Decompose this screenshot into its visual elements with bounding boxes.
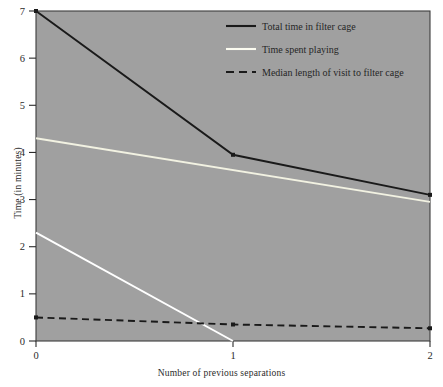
series-point-0-1 — [231, 153, 235, 157]
chart-figure: 01234567 012 Total time in filter cageTi… — [0, 0, 443, 387]
x-axis-ticks: 012 — [33, 341, 432, 361]
y-tick-label: 1 — [20, 288, 25, 299]
y-tick-label: 5 — [20, 100, 25, 111]
legend-label-0[interactable]: Total time in filter cage — [262, 21, 356, 32]
plot-area-background — [36, 11, 430, 341]
legend-label-1[interactable]: Time spent playing — [262, 44, 339, 55]
line-chart: 01234567 012 Total time in filter cageTi… — [0, 0, 443, 387]
y-tick-label: 6 — [20, 53, 25, 64]
y-axis-title: Time (in minutes) — [13, 113, 23, 253]
series-point-0-2 — [428, 193, 432, 197]
series-point-3-1 — [231, 323, 235, 327]
x-tick-label: 1 — [230, 350, 235, 361]
legend-label-2[interactable]: Median length of visit to filter cage — [262, 67, 404, 78]
x-tick-label: 2 — [427, 350, 432, 361]
x-axis-title: Number of previous separations — [0, 368, 443, 378]
x-tick-label: 0 — [33, 350, 38, 361]
y-tick-label: 7 — [20, 6, 25, 17]
series-point-3-0 — [34, 315, 38, 319]
y-tick-label: 0 — [20, 336, 25, 347]
series-point-3-2 — [428, 326, 432, 330]
series-point-0-0 — [34, 9, 38, 13]
